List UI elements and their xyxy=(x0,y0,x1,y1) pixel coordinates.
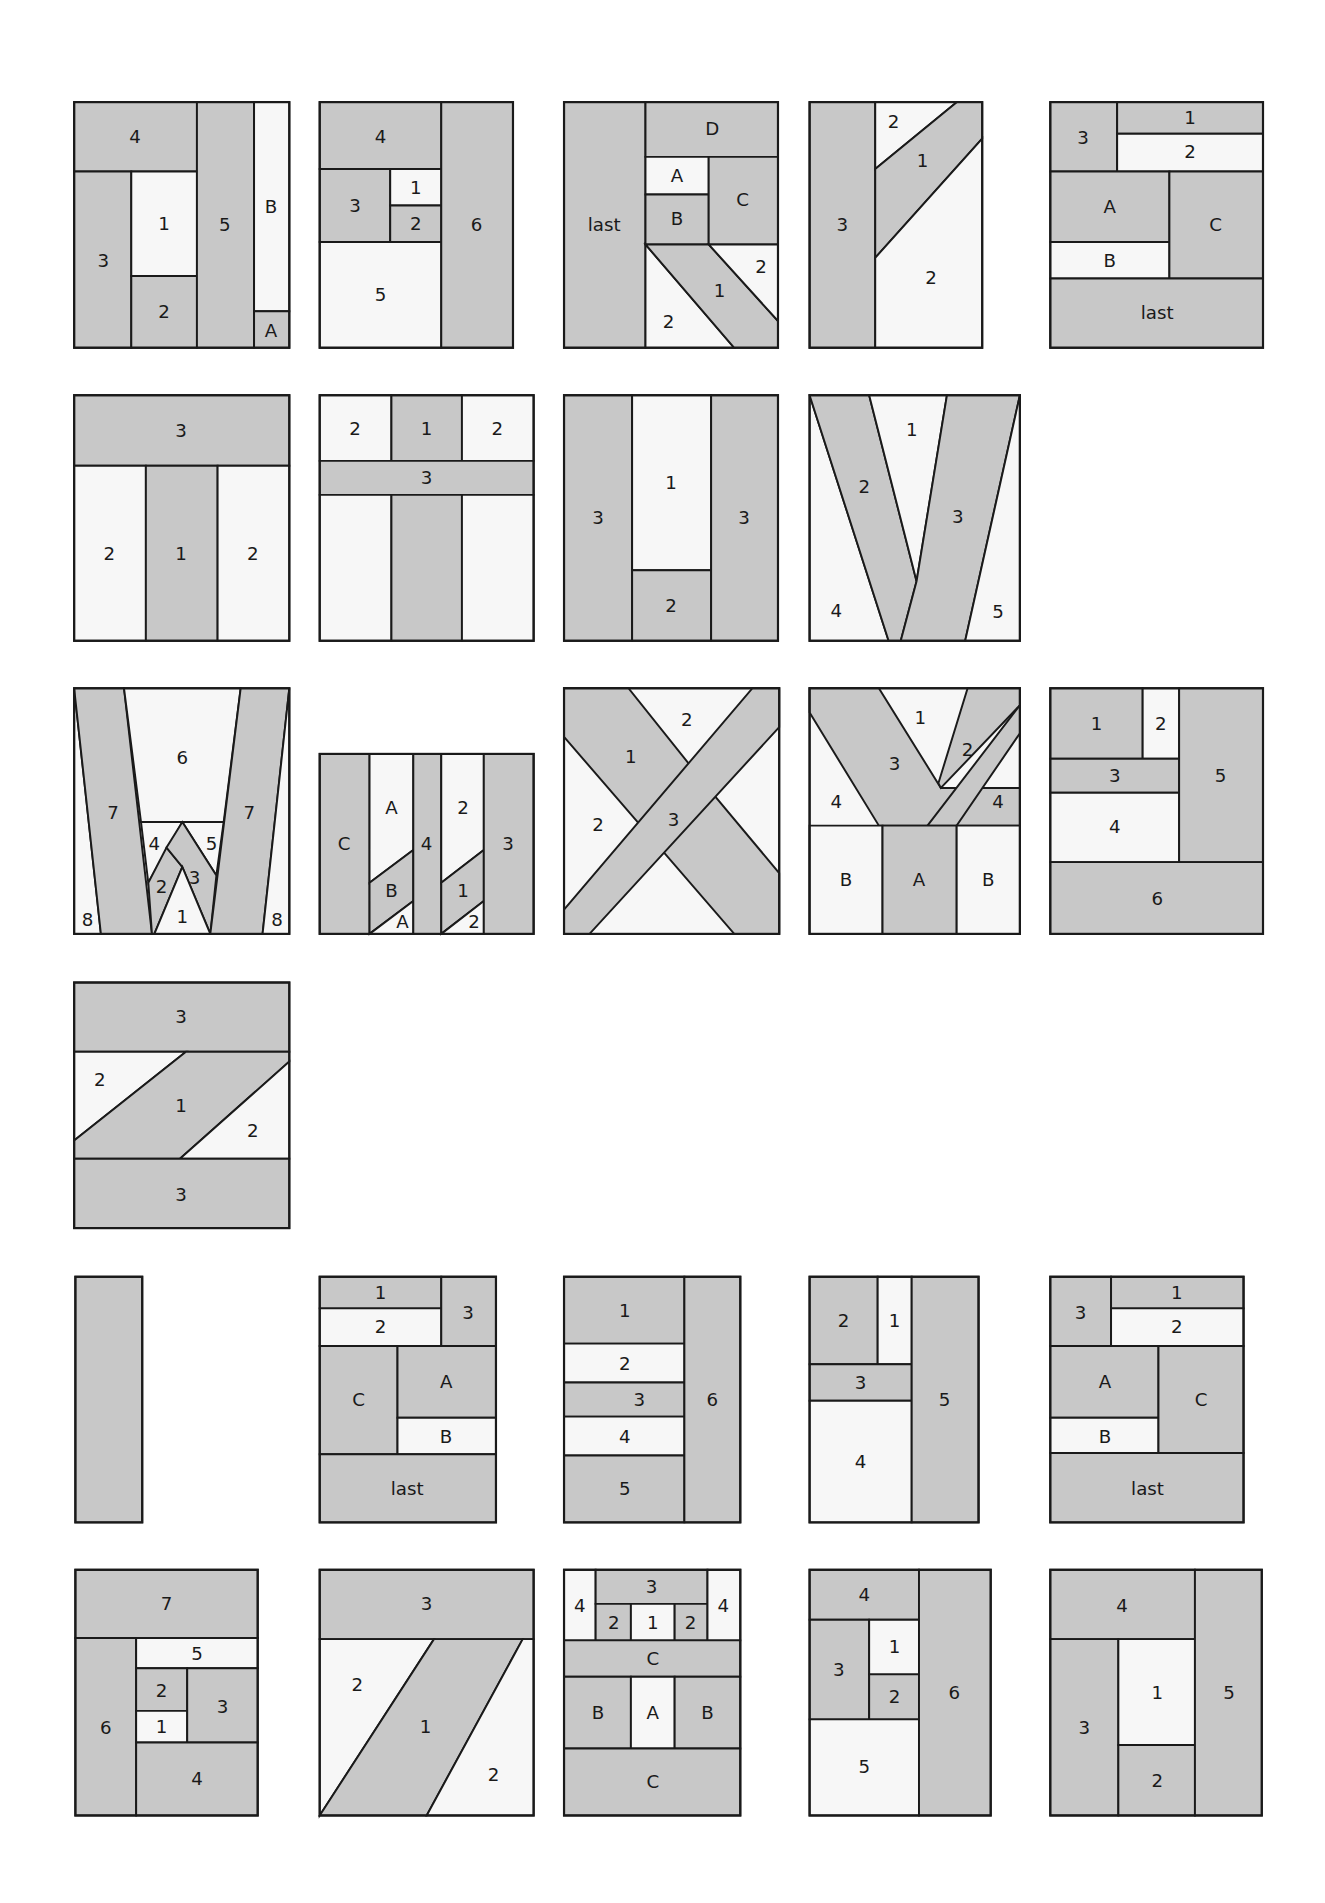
piece-label: 4 xyxy=(149,833,161,854)
piece-label: 3 xyxy=(833,1659,845,1680)
quilt-block-22: 3212 xyxy=(320,1570,534,1816)
quilt-block-8: 3123 xyxy=(564,395,778,641)
piece-label: 3 xyxy=(175,1006,187,1027)
quilt-block-9: 42135 xyxy=(810,395,1020,641)
piece-label: 2 xyxy=(94,1069,106,1090)
quilt-block-15: 32123 xyxy=(74,983,289,1229)
piece-label: 3 xyxy=(502,833,514,854)
piece-label: 3 xyxy=(738,508,750,529)
piece-label: 2 xyxy=(1171,1316,1183,1337)
piece-label: 3 xyxy=(421,1593,433,1614)
piece-label: 1 xyxy=(889,1310,901,1331)
piece-label: 5 xyxy=(191,1643,203,1664)
piece-label: 5 xyxy=(992,601,1004,622)
piece-label: 7 xyxy=(107,802,119,823)
quilt-block-18: 123456 xyxy=(564,1277,740,1523)
piece-label: A xyxy=(385,797,398,818)
piece-label: last xyxy=(588,214,621,235)
piece-label: 1 xyxy=(457,880,469,901)
piece-label: last xyxy=(1131,1478,1164,1499)
piece-label: C xyxy=(1209,214,1222,235)
piece-label: 5 xyxy=(206,833,218,854)
piece-label: 4 xyxy=(858,1584,870,1605)
quilt-block-20: 312ABClast xyxy=(1050,1277,1243,1523)
quilt-block-23: 432124CBABC xyxy=(564,1570,740,1816)
quilt-block-12: 1322 xyxy=(564,688,779,934)
piece-label: 2 xyxy=(156,876,168,897)
dark-fabric-piece xyxy=(75,1277,142,1523)
piece-label: B xyxy=(592,1702,604,1723)
piece-label: 1 xyxy=(889,1636,901,1657)
quilt-block-5: 312ABClast xyxy=(1050,102,1263,348)
piece-label: 1 xyxy=(1151,1682,1163,1703)
piece-label: B xyxy=(1104,250,1116,271)
piece-label: 4 xyxy=(1116,1595,1128,1616)
piece-label: 1 xyxy=(375,1282,387,1303)
piece-label: 2 xyxy=(156,1680,168,1701)
piece-label: 2 xyxy=(592,814,604,835)
piece-label: 8 xyxy=(271,909,283,930)
piece-label: B xyxy=(982,869,994,890)
quilt-block-25: 43125 xyxy=(1050,1570,1262,1816)
piece-label: 2 xyxy=(889,1686,901,1707)
light-fabric-piece xyxy=(462,495,534,641)
piece-label: 2 xyxy=(1184,141,1196,162)
piece-label: A xyxy=(396,911,409,932)
light-fabric-piece xyxy=(320,495,392,641)
piece-label: A xyxy=(440,1371,453,1392)
piece-label: B xyxy=(440,1426,452,1447)
piece-label: 2 xyxy=(247,1120,259,1141)
piece-label: 4 xyxy=(574,1595,586,1616)
piece-label: 3 xyxy=(889,753,901,774)
piece-label: 1 xyxy=(410,177,422,198)
quilt-block-17: 123CABlast xyxy=(320,1277,496,1523)
piece-label: 1 xyxy=(917,150,929,171)
piece-label: B xyxy=(671,208,683,229)
piece-label: 2 xyxy=(665,595,677,616)
piece-label: 4 xyxy=(992,791,1004,812)
piece-label: 2 xyxy=(468,911,480,932)
piece-label: 1 xyxy=(625,746,637,767)
piece-label: 2 xyxy=(755,256,767,277)
piece-label: 2 xyxy=(104,543,116,564)
dark-fabric-piece xyxy=(391,495,462,641)
piece-label: A xyxy=(1104,196,1117,217)
piece-label: 1 xyxy=(158,213,170,234)
piece-label: 2 xyxy=(158,301,170,322)
piece-label: last xyxy=(1141,302,1174,323)
quilt-block-diagram-sheet: 43125BA431256lastDABC2123212312ABClast32… xyxy=(0,0,1325,1903)
piece-label: 6 xyxy=(177,747,189,768)
piece-label: 4 xyxy=(129,126,141,147)
piece-label: 3 xyxy=(1079,1717,1091,1738)
piece-label: 1 xyxy=(906,419,918,440)
quilt-block-4: 3212 xyxy=(810,102,983,348)
piece-label: 3 xyxy=(217,1696,229,1717)
piece-label: B xyxy=(265,196,277,217)
piece-label: last xyxy=(391,1478,424,1499)
quilt-block-21: 7652134 xyxy=(75,1570,257,1816)
piece-label: C xyxy=(646,1648,659,1669)
piece-label: 2 xyxy=(375,1316,387,1337)
piece-label: 1 xyxy=(421,418,433,439)
piece-label: 3 xyxy=(462,1302,474,1323)
piece-label: 4 xyxy=(1109,816,1121,837)
piece-label: 5 xyxy=(375,284,387,305)
piece-label: 1 xyxy=(175,543,187,564)
piece-label: 3 xyxy=(668,809,680,830)
piece-label: 3 xyxy=(855,1372,867,1393)
quilt-block-3: lastDABC212 xyxy=(564,102,778,348)
piece-label: 3 xyxy=(634,1389,646,1410)
piece-label: 2 xyxy=(1151,1770,1163,1791)
piece-label: 1 xyxy=(1091,713,1103,734)
quilt-block-14: 123456 xyxy=(1050,688,1263,934)
quilt-block-11: CABA42123 xyxy=(320,754,534,934)
piece-label: 6 xyxy=(707,1389,719,1410)
quilt-block-10: 8764523178 xyxy=(74,688,289,934)
piece-label: 5 xyxy=(619,1478,631,1499)
piece-label: 2 xyxy=(488,1764,500,1785)
piece-label: 1 xyxy=(914,707,926,728)
piece-label: B xyxy=(840,869,852,890)
piece-label: 6 xyxy=(100,1717,112,1738)
piece-label: C xyxy=(646,1771,659,1792)
piece-label: 3 xyxy=(646,1576,658,1597)
